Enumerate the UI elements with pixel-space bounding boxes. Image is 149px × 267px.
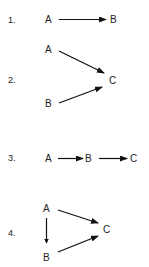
diagram-number: 4.	[8, 228, 16, 238]
node-b: B	[43, 252, 50, 263]
node-b: B	[85, 153, 92, 164]
node-c: C	[103, 224, 110, 235]
diagram-4: 4. A B C	[8, 203, 110, 263]
arrow-b-to-c	[59, 87, 102, 103]
diagram-1: 1. A B	[8, 14, 117, 25]
diagram-number: 1.	[8, 15, 16, 25]
node-c: C	[109, 75, 116, 86]
arrow-a-to-c	[58, 210, 98, 223]
arrow-a-to-c	[59, 51, 104, 73]
diagram-number: 2.	[8, 75, 16, 85]
node-a: A	[45, 14, 52, 25]
arrow-b-to-c	[58, 236, 98, 252]
node-b: B	[110, 14, 117, 25]
node-c: C	[130, 153, 137, 164]
node-b: B	[45, 98, 52, 109]
causal-diagrams: 1. A B 2. A B C 3. A B C 4. A B C	[0, 0, 149, 267]
node-a: A	[43, 203, 50, 214]
diagram-2: 2. A B C	[8, 44, 116, 109]
node-a: A	[45, 153, 52, 164]
diagram-number: 3.	[8, 153, 16, 163]
diagram-3: 3. A B C	[8, 153, 137, 164]
node-a: A	[45, 44, 52, 55]
